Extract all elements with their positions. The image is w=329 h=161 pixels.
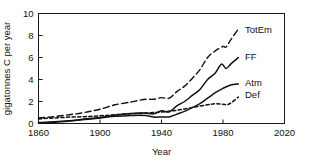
y-tick-label: 4 [28, 74, 33, 85]
series-line-ff [39, 58, 239, 123]
x-axis-tick-labels: 18601900194019802020 [28, 127, 295, 138]
y-axis-ticks [39, 14, 43, 124]
y-tick-label: 6 [28, 52, 33, 63]
series-label-totem: TotEm [245, 24, 272, 35]
x-tick-label: 1900 [89, 127, 110, 138]
y-tick-label: 8 [28, 30, 33, 41]
x-tick-label: 1860 [28, 127, 49, 138]
series-labels-group: TotEmFFAtmDef [245, 24, 272, 100]
series-label-ff: FF [245, 51, 257, 62]
y-tick-label: 2 [28, 96, 33, 107]
data-series-group [39, 29, 239, 123]
series-label-atm: Atm [245, 77, 262, 88]
chart-canvas: 0246810 18601900194019802020 TotEmFFAtmD… [0, 0, 329, 161]
x-axis-title: Year [152, 146, 171, 157]
y-tick-label: 10 [23, 8, 34, 19]
x-tick-label: 1940 [151, 127, 172, 138]
x-tick-label: 1980 [212, 127, 233, 138]
y-axis-tick-labels: 0246810 [23, 8, 34, 129]
emissions-chart: 0246810 18601900194019802020 TotEmFFAtmD… [0, 0, 329, 161]
x-tick-label: 2020 [274, 127, 295, 138]
y-axis-title: gigatonnes C per year [1, 22, 12, 115]
series-label-def: Def [245, 89, 260, 100]
